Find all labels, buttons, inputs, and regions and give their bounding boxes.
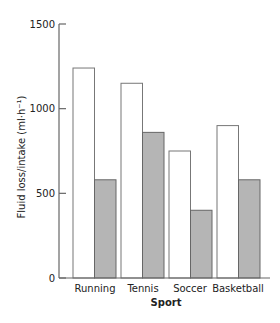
x-category-label: Basketball (212, 283, 264, 294)
x-category-label: Soccer (173, 283, 208, 294)
bar-running-loss (73, 68, 95, 278)
y-ticks: 050010001500 (30, 19, 66, 284)
bar-tennis-loss (121, 83, 143, 278)
x-category-label: Tennis (126, 283, 158, 294)
y-tick-label: 1000 (30, 103, 55, 114)
x-category-label: Running (75, 283, 116, 294)
y-tick-label: 1500 (30, 19, 55, 30)
x-category-labels: RunningTennisSoccerBasketball (75, 283, 264, 294)
x-axis-title: Sport (151, 297, 182, 308)
y-axis-title: Fluid loss/intake (ml·h⁻¹) (16, 95, 27, 218)
bar-tennis-intake (143, 132, 165, 278)
bar-running-intake (95, 180, 117, 278)
bar-soccer-intake (191, 210, 213, 278)
bar-basketball-loss (217, 126, 239, 278)
bars-layer (73, 68, 260, 278)
chart-canvas: 050010001500 RunningTennisSoccerBasketba… (0, 0, 280, 323)
bar-soccer-loss (169, 151, 191, 278)
bar-basketball-intake (239, 180, 261, 278)
y-tick-label: 0 (49, 273, 55, 284)
y-tick-label: 500 (36, 188, 55, 199)
bar-chart: 050010001500 RunningTennisSoccerBasketba… (0, 0, 280, 323)
